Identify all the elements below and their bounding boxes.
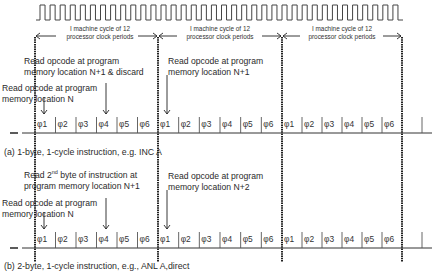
annotation-line: Read opcode at program bbox=[2, 199, 97, 208]
annotation-line: Read 2nd byte of instruction at bbox=[24, 171, 140, 180]
phase-label: φ5 bbox=[243, 120, 253, 128]
machine-cycle-label-line: I machine cycle of 12 bbox=[62, 25, 138, 33]
phase-label: φ1 bbox=[284, 235, 294, 243]
phase-label: φ3 bbox=[324, 235, 334, 243]
phase-label: φ4 bbox=[99, 235, 109, 243]
machine-cycle-label-1: I machine cycle of 12 processor clock pe… bbox=[62, 25, 138, 40]
annotation-line: memory location N bbox=[2, 210, 97, 219]
annotation-b-opcode-n2: Read opcode at program memory location N… bbox=[168, 172, 263, 191]
diagram-b-caption: (b) 2-byte, 1-cycle instruction, e.g., A… bbox=[4, 262, 189, 271]
phase-label: φ4 bbox=[222, 235, 232, 243]
annotation-line: memory location N+1 bbox=[168, 68, 263, 77]
phase-label: φ4 bbox=[99, 120, 109, 128]
phase-label: φ6 bbox=[384, 235, 394, 243]
phase-label: φ2 bbox=[58, 120, 68, 128]
diagram-a-caption: (a) 1-byte, 1-cycle instruction, e.g. IN… bbox=[4, 148, 162, 157]
annotation-text: Read 2 bbox=[24, 170, 52, 180]
annotation-line: Read opcode at program bbox=[2, 84, 97, 93]
phase-label: φ6 bbox=[140, 235, 150, 243]
machine-cycle-label-line: I machine cycle of 12 bbox=[180, 25, 260, 33]
phase-label: φ3 bbox=[201, 120, 211, 128]
annotation-line: Read opcode at program bbox=[168, 172, 263, 181]
machine-cycle-label-line: I machine cycle of 12 bbox=[302, 25, 382, 33]
phase-label: φ2 bbox=[58, 235, 68, 243]
phase-label: φ2 bbox=[304, 120, 314, 128]
annotation-line: memory location N+2 bbox=[168, 183, 263, 192]
phase-label: φ2 bbox=[181, 235, 191, 243]
annotation-line: Read opcode at program bbox=[168, 57, 263, 66]
phase-label: φ3 bbox=[78, 120, 88, 128]
phase-label: φ6 bbox=[263, 235, 273, 243]
phase-label: φ1 bbox=[284, 120, 294, 128]
machine-cycle-label-line: processor clock periods bbox=[180, 33, 260, 41]
annotation-line: memory location N bbox=[2, 95, 97, 104]
phase-label: φ4 bbox=[344, 120, 354, 128]
annotation-a-opcode-n1: Read opcode at program memory location N… bbox=[168, 57, 263, 76]
annotation-b-opcode-n: Read opcode at program memory location N bbox=[2, 199, 97, 218]
phase-label: φ6 bbox=[140, 120, 150, 128]
annotation-text: byte of instruction at bbox=[58, 170, 137, 180]
phase-label: φ5 bbox=[364, 120, 374, 128]
machine-cycle-label-2: I machine cycle of 12 processor clock pe… bbox=[180, 25, 260, 40]
phase-label: φ4 bbox=[344, 235, 354, 243]
annotation-b-second-byte: Read 2nd byte of instruction at program … bbox=[24, 171, 140, 190]
phase-label: φ5 bbox=[119, 235, 129, 243]
annotation-a-opcode-n: Read opcode at program memory location N bbox=[2, 84, 97, 103]
phase-label: φ1 bbox=[37, 120, 47, 128]
phase-label: φ5 bbox=[119, 120, 129, 128]
annotation-line: Read opcode at program bbox=[24, 57, 144, 66]
phase-label: φ6 bbox=[384, 120, 394, 128]
phase-label: φ3 bbox=[324, 120, 334, 128]
machine-cycle-label-line: processor clock periods bbox=[302, 33, 382, 41]
phase-label: φ1 bbox=[160, 235, 170, 243]
phase-label: φ5 bbox=[364, 235, 374, 243]
phase-label: φ6 bbox=[263, 120, 273, 128]
phase-label: φ3 bbox=[78, 235, 88, 243]
annotation-a-opcode-n1-discard: Read opcode at program memory location N… bbox=[24, 57, 144, 76]
phase-label: φ2 bbox=[181, 120, 191, 128]
annotation-superscript: nd bbox=[52, 169, 58, 175]
phase-label: φ2 bbox=[304, 235, 314, 243]
annotation-line: program memory location N+1 bbox=[24, 182, 140, 191]
timing-diagram-graphics bbox=[0, 0, 435, 274]
phase-label: φ1 bbox=[160, 120, 170, 128]
phase-label: φ3 bbox=[201, 235, 211, 243]
machine-cycle-label-3: I machine cycle of 12 processor clock pe… bbox=[302, 25, 382, 40]
annotation-line: memory location N+1 & discard bbox=[24, 68, 144, 77]
clock-waveform bbox=[36, 5, 403, 20]
machine-cycle-label-line: processor clock periods bbox=[62, 33, 138, 41]
phase-label: φ1 bbox=[37, 235, 47, 243]
phase-label: φ4 bbox=[222, 120, 232, 128]
phase-label: φ5 bbox=[243, 235, 253, 243]
